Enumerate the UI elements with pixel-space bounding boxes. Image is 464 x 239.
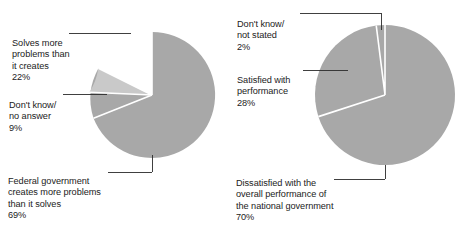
right-label-satisfied-percent: 28% bbox=[237, 98, 313, 110]
left-label-dont-know-percent: 9% bbox=[9, 123, 81, 135]
left-label-federal-government-text: Federal government creates more problems… bbox=[8, 176, 101, 209]
right-label-satisfied: Satisfied with performance 28% bbox=[237, 63, 313, 121]
right-pie-group bbox=[300, 13, 455, 179]
right-label-dont-know-percent: 2% bbox=[237, 42, 313, 54]
left-label-solves-more: Solves more problems than it creates 22% bbox=[12, 26, 84, 96]
left-label-federal-government: Federal government creates more problems… bbox=[8, 164, 120, 234]
right-label-dont-know: Don't know/ not stated 2% bbox=[237, 7, 313, 65]
left-label-dont-know-text: Don't know/ no answer bbox=[9, 100, 56, 122]
right-label-dissatisfied-percent: 70% bbox=[236, 212, 358, 224]
right-label-dissatisfied: Dissatisfied with the overall performanc… bbox=[236, 166, 358, 236]
right-label-dissatisfied-text: Dissatisfied with the overall performanc… bbox=[236, 178, 333, 211]
right-label-satisfied-text: Satisfied with performance bbox=[237, 75, 290, 97]
left-pie-group bbox=[63, 32, 215, 172]
left-label-dont-know: Don't know/ no answer 9% bbox=[9, 88, 81, 146]
pie-chart-pair: Solves more problems than it creates 22%… bbox=[0, 0, 464, 239]
left-label-solves-more-text: Solves more problems than it creates bbox=[12, 38, 70, 71]
right-label-dont-know-text: Don't know/ not stated bbox=[237, 19, 284, 41]
left-label-federal-government-percent: 69% bbox=[8, 210, 120, 222]
left-label-solves-more-percent: 22% bbox=[12, 72, 84, 84]
